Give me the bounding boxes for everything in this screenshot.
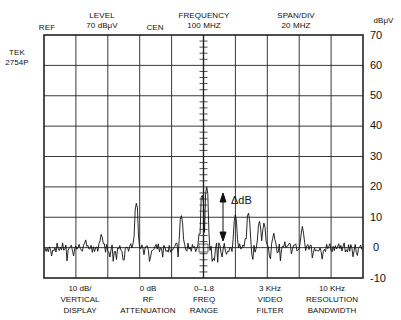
- resolution-bandwidth-line2: RESOLUTION: [292, 294, 372, 305]
- spectrum-plot: ΔdB: [0, 0, 401, 320]
- delta-db-label: ΔdB: [231, 194, 252, 206]
- resolution-bandwidth-value: 10 KHz: [292, 283, 372, 294]
- resolution-bandwidth-setting: 10 KHz RESOLUTION BANDWIDTH: [292, 283, 372, 316]
- resolution-bandwidth-line3: BANDWIDTH: [292, 305, 372, 316]
